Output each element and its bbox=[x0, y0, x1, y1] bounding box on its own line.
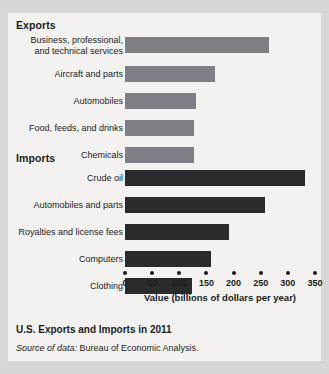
bar-label-line1: Chemicals bbox=[0, 150, 123, 161]
bar-label-line1: Royalties and license fees bbox=[0, 227, 123, 238]
x-axis-tick-dot bbox=[177, 271, 181, 275]
exports-bar[interactable] bbox=[125, 120, 194, 136]
bar-label: Chemicals bbox=[0, 150, 123, 161]
chart-row: Business, professional, and technical se… bbox=[8, 35, 321, 57]
x-axis-title: Value (billions of dollars per year) bbox=[125, 292, 315, 303]
x-axis: 050100150200250300350 Value (billions of… bbox=[8, 271, 321, 321]
chart-plot-area: Exports Imports Business, professional, … bbox=[8, 13, 321, 298]
bar-label-line1: Crude oil bbox=[0, 173, 123, 184]
imports-bar[interactable] bbox=[125, 224, 229, 240]
x-axis-tick-dot bbox=[204, 271, 208, 275]
bar-label-line1: Automobiles bbox=[0, 96, 123, 107]
chart-row: Automobiles and parts bbox=[8, 195, 321, 217]
exports-bar[interactable] bbox=[125, 147, 194, 163]
imports-bar[interactable] bbox=[125, 197, 265, 213]
x-axis-tick-label: 350 bbox=[307, 278, 322, 288]
exports-bar[interactable] bbox=[125, 66, 215, 82]
source-label: Source of data: bbox=[16, 343, 77, 353]
figure-caption-title: U.S. Exports and Imports in 2011 bbox=[16, 324, 172, 335]
bar-label: Crude oil bbox=[0, 173, 123, 184]
chart-row: Royalties and license fees bbox=[8, 222, 321, 244]
bar-label: Aircraft and parts bbox=[0, 69, 123, 80]
chart-row: Chemicals bbox=[8, 145, 321, 167]
bar-label: Computers bbox=[0, 254, 123, 265]
bar-label-line1: Aircraft and parts bbox=[0, 69, 123, 80]
exports-bar[interactable] bbox=[125, 93, 196, 109]
x-axis-tick-dot bbox=[313, 271, 317, 275]
bar-label: Automobiles bbox=[0, 96, 123, 107]
figure-source-note: Source of data: Bureau of Economic Analy… bbox=[16, 343, 199, 353]
page-bottom-margin bbox=[0, 361, 329, 374]
chart-row: Computers bbox=[8, 249, 321, 271]
x-axis-tick-dot bbox=[259, 271, 263, 275]
bar-label: Automobiles and parts bbox=[0, 200, 123, 211]
x-axis-tick-label: 150 bbox=[199, 278, 214, 288]
figure-panel: Exports Imports Business, professional, … bbox=[8, 13, 321, 361]
bar-label-line1: Business, professional, bbox=[0, 35, 123, 46]
bar-label: Royalties and license fees bbox=[0, 227, 123, 238]
chart-row: Crude oil bbox=[8, 168, 321, 190]
x-axis-tick-label: 250 bbox=[253, 278, 268, 288]
page-top-margin bbox=[0, 0, 329, 13]
x-axis-tick-dot bbox=[123, 271, 127, 275]
bar-label-line2: and technical services bbox=[0, 46, 123, 57]
chart-row: Food, feeds, and drinks bbox=[8, 118, 321, 140]
imports-bar[interactable] bbox=[125, 251, 211, 267]
chart-row: Aircraft and parts bbox=[8, 64, 321, 86]
x-axis-tick-dot bbox=[232, 271, 236, 275]
exports-group-heading: Exports bbox=[16, 19, 56, 31]
source-text: Bureau of Economic Analysis. bbox=[77, 343, 199, 353]
x-axis-tick-label: 300 bbox=[280, 278, 295, 288]
bar-label-line1: Computers bbox=[0, 254, 123, 265]
bar-label: Business, professional, and technical se… bbox=[0, 35, 123, 56]
x-axis-tick-dot bbox=[286, 271, 290, 275]
x-axis-tick-label: 50 bbox=[147, 278, 157, 288]
exports-bar[interactable] bbox=[125, 37, 269, 53]
x-axis-tick-label: 200 bbox=[226, 278, 241, 288]
bar-label-line1: Automobiles and parts bbox=[0, 200, 123, 211]
bar-label: Food, feeds, and drinks bbox=[0, 123, 123, 134]
bar-label-line1: Food, feeds, and drinks bbox=[0, 123, 123, 134]
imports-bar[interactable] bbox=[125, 170, 305, 186]
x-axis-tick-label: 100 bbox=[172, 278, 187, 288]
x-axis-tick-dot bbox=[150, 271, 154, 275]
chart-row: Automobiles bbox=[8, 91, 321, 113]
x-axis-tick-label: 0 bbox=[122, 278, 127, 288]
